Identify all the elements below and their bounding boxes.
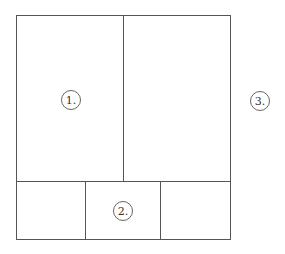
lower-left-divider xyxy=(85,181,86,239)
region-label-3-text: 3. xyxy=(255,95,266,108)
frame-bottom-edge xyxy=(16,239,231,240)
region-label-1-text: 1. xyxy=(66,94,77,107)
region-label-1: 1. xyxy=(61,90,81,110)
region-label-2: 2. xyxy=(113,201,133,221)
lower-right-divider xyxy=(160,181,161,239)
frame-right-edge xyxy=(230,15,231,240)
frame-left-edge xyxy=(16,15,17,240)
upper-vertical-divider xyxy=(123,15,124,181)
region-label-2-text: 2. xyxy=(118,205,129,218)
region-label-3: 3. xyxy=(250,91,270,111)
horizontal-divider xyxy=(16,181,231,182)
